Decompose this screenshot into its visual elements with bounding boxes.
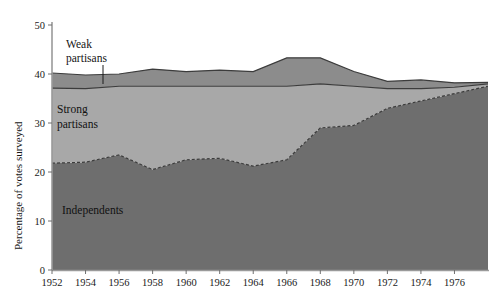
independents-label: Independents [62,204,124,217]
x-tick-label: 1970 [343,277,364,288]
y-tick-label: 30 [35,118,46,129]
strong-partisans-label-line1: Strong [57,103,88,116]
y-axis-title: Percentage of votes surveyed [12,121,24,250]
x-tick-label: 1952 [42,277,63,288]
strong-partisans-label-line2: partisans [57,118,98,131]
weak-partisans-label-line2: partisans [66,52,107,65]
x-tick-label: 1962 [209,277,230,288]
x-tick-label: 1972 [377,277,398,288]
x-tick-label: 1958 [142,277,163,288]
x-tick-label: 1960 [176,277,197,288]
x-tick-label: 1974 [410,277,432,288]
y-tick-labels: 01020304050 [35,20,46,276]
weak-partisans-label-line1: Weak [66,38,92,50]
x-tick-label: 1954 [75,277,97,288]
y-tick-label: 10 [35,216,46,227]
y-tick-label: 50 [35,20,46,31]
y-tick-label: 20 [35,167,46,178]
y-tick-label: 40 [35,69,46,80]
stacked-area-chart: 01020304050 1952195419561958196019621964… [0,0,503,305]
x-tick-label: 1956 [109,277,130,288]
x-tick-label: 1976 [444,277,465,288]
x-tick-labels: 1952195419561958196019621964196619681970… [42,277,465,288]
x-tick-label: 1966 [276,277,297,288]
chart-figure: 01020304050 1952195419561958196019621964… [0,0,503,305]
x-tick-label: 1968 [310,277,331,288]
x-tick-label: 1964 [243,277,265,288]
y-tick-label: 0 [40,265,45,276]
area-series-group [52,58,488,270]
